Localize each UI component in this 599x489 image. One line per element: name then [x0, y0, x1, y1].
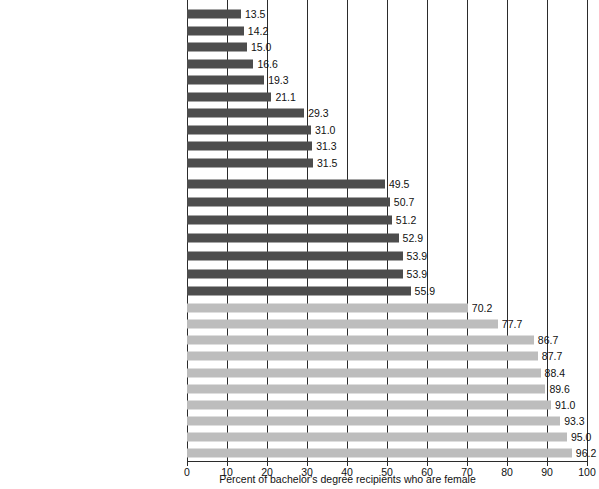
bar-value-label: 91.0 [551, 400, 575, 411]
plot-area: Mechanical engineering13.5Aerospace engi… [187, 0, 587, 462]
bar-value-label: 29.3 [304, 108, 328, 119]
bar-row: Social work88.4 [187, 365, 587, 381]
bar [187, 26, 244, 35]
bar-row: Psychology77.7 [187, 316, 587, 332]
bar-row: Philosophy31.5 [187, 155, 587, 171]
gridline-100 [587, 0, 588, 462]
bar-row: Early childhood education96.2 [187, 445, 587, 461]
bar [187, 215, 392, 224]
bar-row: Art history86.7 [187, 332, 587, 348]
bar-value-label: 96.2 [572, 448, 596, 459]
bar [187, 142, 312, 151]
bar-value-label: 89.6 [545, 384, 569, 395]
bar [187, 400, 551, 409]
bar [187, 125, 311, 134]
bar-value-label: 13.5 [241, 9, 265, 20]
bar [187, 368, 541, 377]
bar-row: Astrophysics31.0 [187, 122, 587, 138]
bar-row: Computer science16.6 [187, 56, 587, 72]
bar-value-label: 14.2 [244, 25, 268, 36]
bar-row: Interior design89.6 [187, 381, 587, 397]
bar-value-label: 53.9 [403, 268, 427, 279]
bar [187, 287, 411, 296]
bar [187, 76, 264, 85]
bar-value-label: 88.4 [541, 367, 565, 378]
bar-value-label: 21.1 [271, 92, 295, 103]
bar-row: Parks, recreation, and leisure studies53… [187, 266, 587, 282]
bar-row: Biochemistry49.5 [187, 176, 587, 192]
bar [187, 197, 390, 206]
bar-row: Sociology70.2 [187, 300, 587, 316]
bar-row: Finance29.3 [187, 105, 587, 121]
bar-value-label: 87.7 [538, 351, 562, 362]
bar-value-label: 93.3 [560, 416, 584, 427]
bar-row: Women's studies93.3 [187, 413, 587, 429]
bar-row: Economics31.3 [187, 138, 587, 154]
bar-row: Elementary education91.0 [187, 397, 587, 413]
bar [187, 269, 403, 278]
bar [187, 10, 241, 19]
bar [187, 180, 385, 189]
bar-row: Music theory and composition21.1 [187, 89, 587, 105]
bar-value-label: 50.7 [390, 197, 414, 208]
bar [187, 59, 253, 68]
bar [187, 384, 545, 393]
x-axis-title: Percent of bachelor's degree recipients … [0, 474, 599, 485]
bar [187, 304, 468, 313]
bar [187, 449, 572, 458]
bar [187, 158, 313, 167]
bar-value-label: 53.9 [403, 250, 427, 261]
x-axis-title-text: Percent of bachelor's degree recipients … [123, 474, 475, 485]
bar-row: Aerospace engineering14.2 [187, 23, 587, 39]
bar-value-label: 70.2 [468, 303, 492, 314]
bar [187, 336, 534, 345]
bar-value-label: 19.3 [264, 75, 288, 86]
bar-row: Family and consumer sciences95.0 [187, 429, 587, 445]
bar-value-label: 31.3 [312, 141, 336, 152]
bar-value-label: 52.9 [399, 232, 423, 243]
bar [187, 320, 498, 329]
bar [187, 109, 304, 118]
bar [187, 417, 560, 426]
bar-value-label: 31.0 [311, 125, 335, 136]
bar-value-label: 49.5 [385, 179, 409, 190]
bar [187, 233, 399, 242]
bar-row: Registered nursing87.7 [187, 348, 587, 364]
bar-row: Mechanical engineering13.5 [187, 6, 587, 22]
bar [187, 433, 567, 442]
bar-value-label: 51.2 [392, 215, 416, 226]
bar-value-label: 55.9 [411, 286, 435, 297]
bar-row: Music teacher education55.9 [187, 283, 587, 299]
bar-value-label: 16.6 [253, 58, 277, 69]
bar-row: Accounting50.7 [187, 194, 587, 210]
bar-value-label: 86.7 [534, 335, 558, 346]
bar [187, 251, 403, 260]
bar-value-label: 77.7 [498, 319, 522, 330]
bar [187, 43, 247, 52]
bar-row: Jazz/Jazz studies15.0 [187, 39, 587, 55]
bar-chart: Mechanical engineering13.5Aerospace engi… [0, 0, 599, 489]
bar-row: Kinesiology and exercise science53.9 [187, 248, 587, 264]
bar [187, 92, 271, 101]
bar-row: Criminology52.9 [187, 230, 587, 246]
bar-value-label: 95.0 [567, 432, 591, 443]
bar-value-label: 31.5 [313, 158, 337, 169]
bar-row: Environmental science51.2 [187, 212, 587, 228]
bar [187, 352, 538, 361]
bar-value-label: 15.0 [247, 42, 271, 53]
bar-row: Physics19.3 [187, 72, 587, 88]
